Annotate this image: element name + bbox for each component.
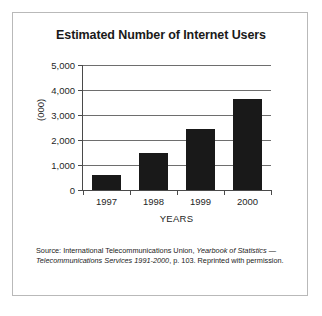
y-tick-mark xyxy=(78,115,83,116)
y-axis-title: (000) xyxy=(35,99,46,121)
figure-frame: Estimated Number of Internet Users (000)… xyxy=(12,12,308,296)
y-axis-label: 5,000 xyxy=(51,60,75,71)
y-axis-label: 4,000 xyxy=(51,85,75,96)
bar xyxy=(92,175,120,190)
source-note-suffix: , p. 103. Reprinted with permission. xyxy=(169,256,283,265)
x-tick-mark xyxy=(130,190,131,195)
bar xyxy=(233,99,261,190)
y-axis-label: 1,000 xyxy=(51,160,75,171)
source-note: Source: International Telecommunications… xyxy=(36,246,292,267)
bar xyxy=(139,153,167,191)
x-axis-title: YEARS xyxy=(82,213,271,224)
x-axis-label: 2000 xyxy=(237,196,258,207)
y-tick-mark xyxy=(78,165,83,166)
x-tick-mark xyxy=(271,190,272,195)
y-tick-mark xyxy=(78,90,83,91)
y-tick-mark xyxy=(78,140,83,141)
x-tick-mark xyxy=(224,190,225,195)
x-tick-mark xyxy=(83,190,84,195)
x-axis-label: 1998 xyxy=(143,196,164,207)
gridline xyxy=(83,65,271,66)
chart-title: Estimated Number of Internet Users xyxy=(13,28,309,42)
gridline xyxy=(83,90,271,91)
y-axis-label: 0 xyxy=(70,185,75,196)
x-axis-label: 1997 xyxy=(96,196,117,207)
y-axis-label: 3,000 xyxy=(51,110,75,121)
plot-wrapper: 01,0002,0003,0004,0005,000 1997199819992… xyxy=(82,65,271,191)
bar xyxy=(186,129,214,190)
y-tick-mark xyxy=(78,65,83,66)
x-tick-mark xyxy=(177,190,178,195)
x-axis-label: 1999 xyxy=(190,196,211,207)
y-axis-label: 2,000 xyxy=(51,135,75,146)
source-note-prefix: Source: International Telecommunications… xyxy=(36,246,197,255)
plot-area: 01,0002,0003,0004,0005,000 1997199819992… xyxy=(82,65,271,191)
